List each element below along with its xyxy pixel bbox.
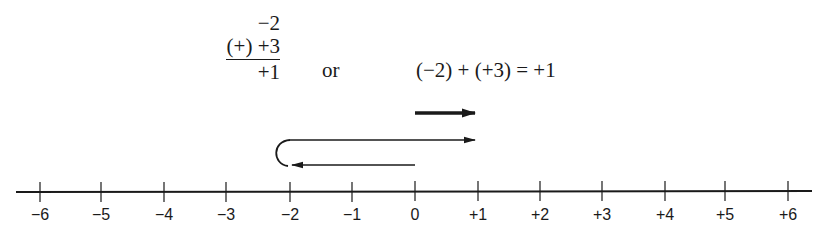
u-turn-curve <box>276 140 290 166</box>
tick-label: +5 <box>716 206 734 224</box>
tick-label: +4 <box>656 206 674 224</box>
tick-label: −3 <box>217 206 235 224</box>
tick-label: −6 <box>31 206 49 224</box>
tick-label: −1 <box>343 206 361 224</box>
tick-label: +2 <box>531 206 549 224</box>
tick-label: −4 <box>155 206 173 224</box>
tick-label: 0 <box>411 206 420 224</box>
number-line-axis <box>16 191 812 192</box>
tick-label: −2 <box>281 206 299 224</box>
tick-label: +1 <box>469 206 487 224</box>
tick-label: −5 <box>92 206 110 224</box>
tick-label: +3 <box>593 206 611 224</box>
tick-label: +6 <box>779 206 797 224</box>
